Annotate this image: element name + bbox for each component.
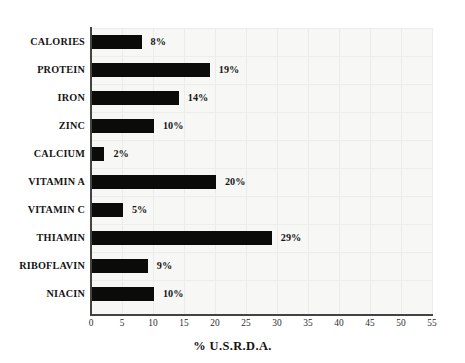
bar-row: VITAMIN A20% <box>0 168 465 196</box>
category-label: RIBOFLAVIN <box>19 252 85 280</box>
x-tick-label: 25 <box>241 318 250 328</box>
category-label: PROTEIN <box>37 56 85 84</box>
x-tick-label: 55 <box>427 318 436 328</box>
bar <box>92 231 272 245</box>
x-tick-label: 10 <box>148 318 157 328</box>
bar-value-label: 2% <box>113 140 128 168</box>
bar <box>92 35 142 49</box>
x-tick-label: 20 <box>210 318 219 328</box>
x-tick-label: 50 <box>396 318 405 328</box>
category-label: VITAMIN A <box>28 168 85 196</box>
bar <box>92 119 154 133</box>
bar-row: THIAMIN29% <box>0 224 465 252</box>
x-tick-label: 35 <box>303 318 312 328</box>
bar <box>92 259 148 273</box>
bar-value-label: 5% <box>132 196 147 224</box>
bar-row: NIACIN10% <box>0 280 465 308</box>
bar-value-label: 14% <box>188 84 208 112</box>
bar <box>92 175 216 189</box>
bar-value-label: 19% <box>219 56 239 84</box>
bar-value-label: 8% <box>151 28 166 56</box>
bar-chart: CALORIES8%PROTEIN19%IRON14%ZINC10%CALCIU… <box>0 0 465 363</box>
bar-row: IRON14% <box>0 84 465 112</box>
bar-row: CALCIUM2% <box>0 140 465 168</box>
category-label: IRON <box>58 84 85 112</box>
bar-value-label: 29% <box>281 224 301 252</box>
bar <box>92 203 123 217</box>
bar <box>92 287 154 301</box>
x-tick-label: 30 <box>272 318 281 328</box>
bar-value-label: 9% <box>157 252 172 280</box>
bar-value-label: 10% <box>163 112 183 140</box>
bar-row: CALORIES8% <box>0 28 465 56</box>
bar-row: PROTEIN19% <box>0 56 465 84</box>
bar <box>92 63 210 77</box>
x-axis-line <box>90 314 433 316</box>
category-label: VITAMIN C <box>28 196 85 224</box>
x-tick-label: 0 <box>89 318 94 328</box>
bar-row: VITAMIN C5% <box>0 196 465 224</box>
x-tick-label: 5 <box>120 318 125 328</box>
bar-value-label: 20% <box>225 168 245 196</box>
category-label: CALCIUM <box>34 140 85 168</box>
bar-row: ZINC10% <box>0 112 465 140</box>
category-label: NIACIN <box>46 280 85 308</box>
bar-value-label: 10% <box>163 280 183 308</box>
x-tick-label: 40 <box>334 318 343 328</box>
x-tick-label: 45 <box>365 318 374 328</box>
x-axis-title: % U.S.R.D.A. <box>0 339 465 354</box>
category-label: CALORIES <box>30 28 85 56</box>
bar <box>92 147 104 161</box>
category-label: ZINC <box>59 112 85 140</box>
category-label: THIAMIN <box>37 224 85 252</box>
bar <box>92 91 179 105</box>
bar-row: RIBOFLAVIN9% <box>0 252 465 280</box>
x-tick-label: 15 <box>179 318 188 328</box>
